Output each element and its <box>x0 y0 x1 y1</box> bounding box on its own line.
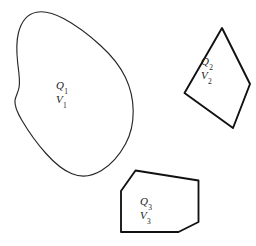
figure-vector-layer <box>0 0 256 246</box>
cube-charge-label: Q3 <box>140 196 152 210</box>
cube-volume-label: V3 <box>140 210 152 224</box>
blob-volume-label: V1 <box>56 94 68 108</box>
blob-outline <box>15 12 133 176</box>
label-blob-charge-volume: Q1 V1 <box>56 80 68 108</box>
shape-blob <box>15 12 133 176</box>
tetrahedron-volume-label: V2 <box>201 70 213 84</box>
label-tetrahedron-charge-volume: Q2 V2 <box>201 56 213 84</box>
shape-cube <box>121 171 199 233</box>
blob-charge-label: Q1 <box>56 80 68 94</box>
figure-canvas: Q1 V1 Q2 V2 Q3 V3 <box>0 0 256 246</box>
shape-tetrahedron <box>185 28 251 128</box>
tetrahedron-charge-label: Q2 <box>201 56 213 70</box>
tetrahedron-outline <box>185 28 251 128</box>
label-cube-charge-volume: Q3 V3 <box>140 196 152 224</box>
cube-outline <box>121 171 199 233</box>
